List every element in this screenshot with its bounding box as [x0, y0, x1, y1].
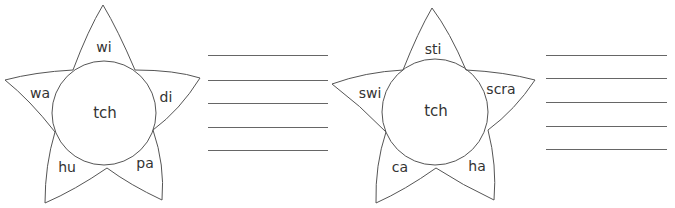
- petal-label: pa: [136, 155, 153, 171]
- center-label: tch: [424, 102, 448, 120]
- answer-line[interactable]: [546, 55, 667, 56]
- petal-label: ca: [392, 159, 408, 175]
- petal-label: di: [160, 89, 173, 105]
- answer-line[interactable]: [546, 126, 667, 127]
- answer-line[interactable]: [546, 149, 667, 150]
- petal-label: ha: [468, 158, 485, 174]
- petal-label: scra: [486, 81, 515, 97]
- center-label: tch: [93, 104, 117, 122]
- answer-line[interactable]: [208, 127, 328, 128]
- petal-label: wi: [96, 39, 111, 55]
- answer-line[interactable]: [208, 80, 328, 81]
- petal-label: wa: [30, 85, 50, 101]
- answer-line[interactable]: [546, 78, 667, 79]
- answer-line[interactable]: [208, 55, 328, 56]
- answer-line[interactable]: [546, 102, 667, 103]
- answer-line[interactable]: [208, 103, 328, 104]
- answer-line[interactable]: [208, 150, 328, 151]
- petal-label: sti: [425, 41, 442, 57]
- petal-label: hu: [58, 159, 76, 175]
- petal-label: swi: [359, 85, 382, 101]
